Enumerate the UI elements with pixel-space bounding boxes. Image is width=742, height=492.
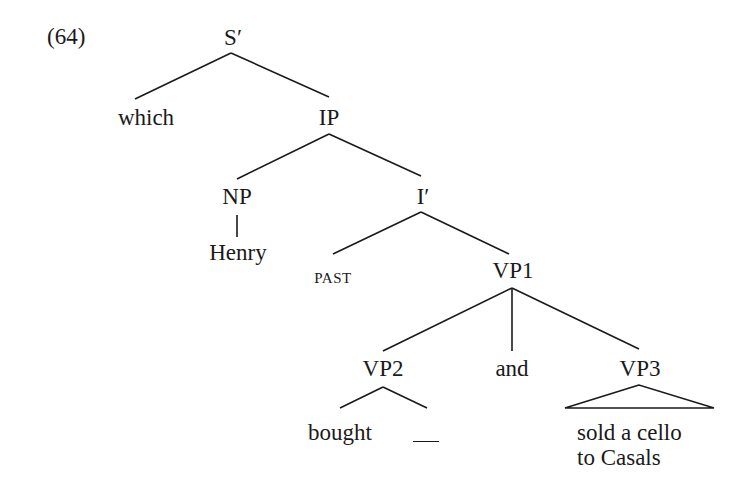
node-vp3: VP3 — [620, 356, 661, 382]
tree-edges — [0, 0, 742, 492]
node-vp3-text-line2: to Casals — [577, 445, 661, 471]
edge-ibar-vp1 — [421, 212, 509, 254]
node-vp2: VP2 — [363, 356, 404, 382]
edge-vp2-gap — [383, 387, 427, 408]
node-and: and — [495, 356, 528, 382]
node-bought: bought — [308, 420, 372, 446]
edge-ibar-past — [333, 212, 421, 254]
node-vp1: VP1 — [493, 258, 534, 284]
node-past: PAST — [314, 265, 352, 291]
node-s-bar: S′ — [224, 25, 242, 51]
vp3-triangle — [565, 385, 714, 408]
edge-vp1-vp2 — [383, 288, 512, 351]
edge-sbar-ip — [231, 53, 329, 97]
node-np: NP — [222, 184, 251, 210]
node-vp3-text-line1: sold a cello — [577, 420, 682, 446]
node-ip: IP — [319, 105, 339, 131]
node-which: which — [118, 105, 174, 131]
edge-ip-ibar — [329, 134, 421, 176]
edge-vp1-vp3 — [512, 288, 639, 349]
node-i-bar: I′ — [417, 184, 430, 210]
edge-ip-np — [237, 134, 329, 179]
edge-vp2-bought — [340, 387, 383, 408]
edge-sbar-which — [135, 53, 231, 99]
node-henry: Henry — [209, 240, 266, 266]
gap-trace — [413, 441, 439, 442]
example-number: (64) — [47, 24, 85, 50]
